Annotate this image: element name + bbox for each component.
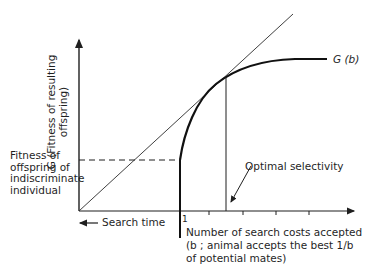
fitness-curve (180, 59, 327, 160)
x-axis-label: Number of search costs accepted (b ; ani… (186, 226, 362, 265)
search-time-label: Search time (102, 216, 165, 228)
tick-label-one: 1 (182, 213, 188, 225)
indiscriminate-label: Fitness of offspring of indiscriminate i… (10, 150, 84, 196)
curve-label: G (b) (333, 53, 359, 65)
search-cost-line (79, 14, 293, 211)
optimal-selectivity-label: Optimal selectivity (245, 160, 343, 172)
